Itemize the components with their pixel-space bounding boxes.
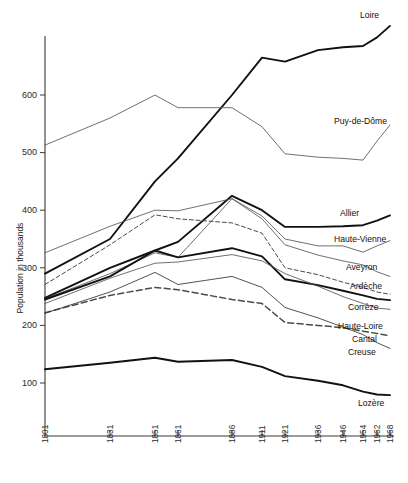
x-tick-label: 1911	[258, 425, 267, 443]
series-label-allier: Allier	[340, 208, 359, 218]
x-tick-group: 1801183118511861188619111921193619461954…	[41, 424, 395, 443]
y-tick-label: 600	[22, 90, 37, 100]
x-tick-label: 1962	[373, 424, 382, 443]
series-labels-group: LoirePuy-de-DômeAllierHaute-VienneAveyro…	[334, 10, 387, 408]
x-tick-label: 1968	[386, 424, 395, 443]
series-line-puy-de-d-me	[45, 95, 390, 160]
series-label-creuse: Creuse	[348, 347, 376, 357]
y-tick-label: 100	[22, 378, 37, 388]
series-label-loire: Loire	[360, 10, 379, 20]
x-tick-label: 1954	[359, 424, 368, 443]
series-label-corr-ze: Corrèze	[348, 302, 379, 312]
x-tick-label: 1936	[314, 424, 323, 443]
series-label-cantal: Cantal	[352, 334, 377, 344]
x-tick-label: 1831	[106, 424, 115, 443]
series-label-loz-re: Lozère	[358, 398, 384, 408]
x-tick-label: 1851	[151, 424, 160, 443]
y-tick-label: 400	[22, 205, 37, 215]
population-line-chart: 100200300400500600 180118311851186118861…	[0, 0, 408, 483]
series-line-aveyron	[45, 199, 390, 299]
x-tick-label: 1861	[174, 424, 183, 443]
series-line-loz-re	[45, 358, 390, 395]
x-tick-label: 1921	[281, 424, 290, 443]
chart-canvas: 100200300400500600 180118311851186118861…	[0, 0, 408, 483]
y-axis-title: Population in thousands	[15, 223, 25, 314]
y-tick-group: 100200300400500600	[22, 90, 45, 388]
x-tick-label: 1946	[339, 424, 348, 443]
series-label-puy-de-d-me: Puy-de-Dôme	[334, 116, 387, 126]
series-label-haute-vienne: Haute-Vienne	[334, 234, 387, 244]
series-lines-group	[45, 26, 390, 395]
x-tick-label: 1801	[41, 424, 50, 443]
y-tick-label: 200	[22, 320, 37, 330]
series-label-ard-che: Ardèche	[350, 281, 382, 291]
y-tick-label: 500	[22, 147, 37, 157]
axis-title-group: Population in thousands	[15, 223, 25, 314]
series-label-aveyron: Aveyron	[346, 262, 378, 272]
series-label-haute-loire: Haute-Loire	[338, 321, 383, 331]
x-tick-label: 1886	[228, 424, 237, 443]
